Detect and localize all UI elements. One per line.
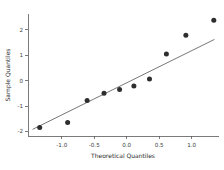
data-point — [117, 87, 122, 92]
x-tick-label: -0.5 — [89, 142, 100, 148]
x-axis-title: Theoretical Quantiles — [90, 152, 155, 159]
y-tick-marks — [25, 30, 28, 132]
data-point — [37, 125, 42, 130]
y-tick-label: -2 — [17, 128, 23, 134]
data-point — [211, 18, 216, 23]
data-point — [164, 51, 169, 56]
data-point — [65, 120, 70, 125]
data-point — [102, 91, 107, 96]
y-tick-label: 2 — [19, 27, 23, 33]
plot-canvas: -1.0-0.50.00.51.0 -2-1012 Theoretical Qu… — [0, 0, 224, 170]
x-tick-labels: -1.0-0.50.00.51.0 — [56, 142, 196, 148]
x-tick-label: 0.5 — [155, 142, 164, 148]
y-tick-label: 1 — [19, 52, 23, 58]
y-tick-label: 0 — [19, 78, 23, 84]
y-axis-title: Sample Quantiles — [4, 49, 12, 102]
x-tick-label: 1.0 — [187, 142, 196, 148]
data-point — [183, 33, 188, 38]
data-points-group — [37, 18, 216, 130]
x-tick-label: -1.0 — [56, 142, 67, 148]
y-tick-labels: -2-1012 — [17, 27, 23, 135]
data-point — [131, 83, 136, 88]
x-tick-label: 0.0 — [122, 142, 131, 148]
data-point — [85, 98, 90, 103]
qq-plot-figure: -1.0-0.50.00.51.0 -2-1012 Theoretical Qu… — [0, 0, 224, 170]
reference-line — [33, 39, 215, 129]
data-point — [147, 77, 152, 82]
x-tick-marks — [62, 136, 192, 139]
y-tick-label: -1 — [17, 103, 23, 109]
reference-line-group — [33, 39, 215, 129]
